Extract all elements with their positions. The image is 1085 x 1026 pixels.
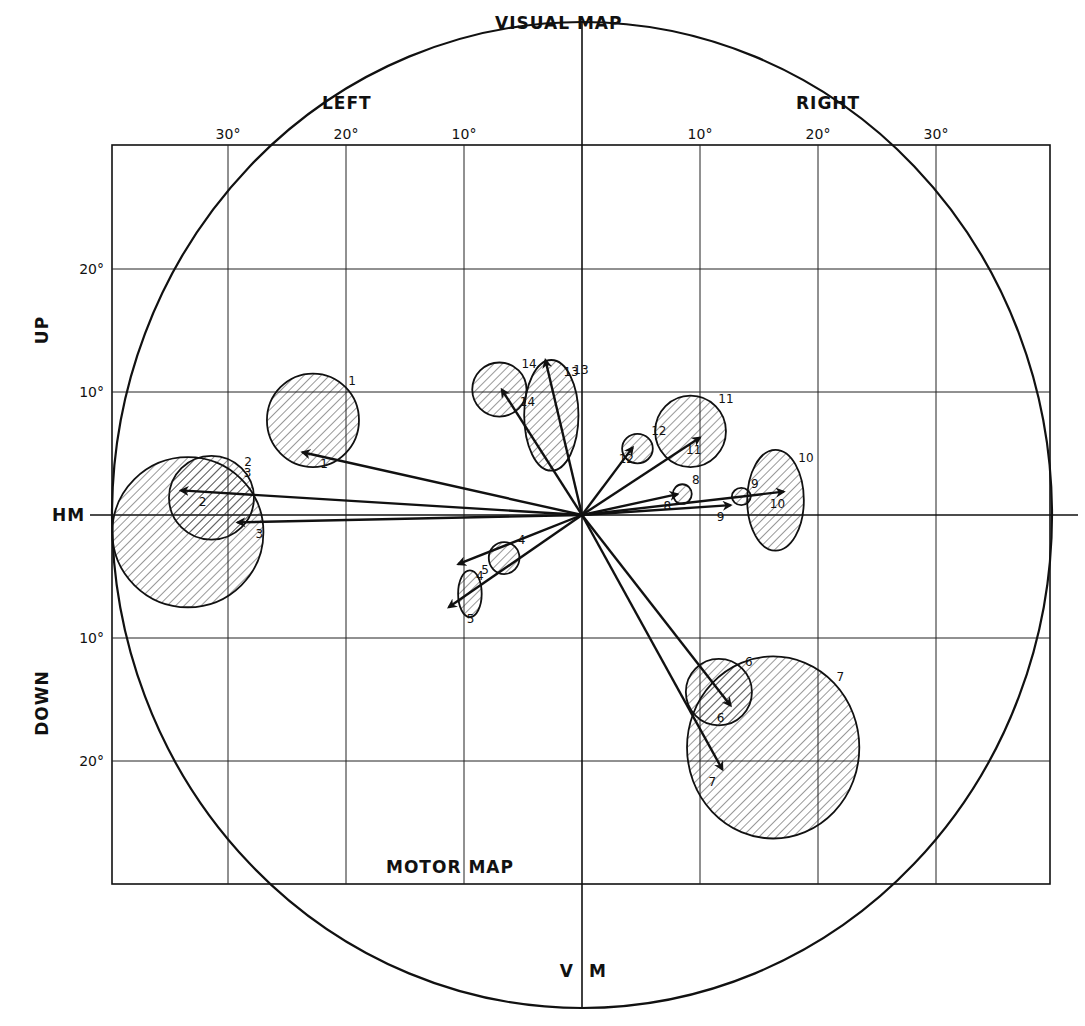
motor-map-title: MOTOR MAP <box>386 857 514 877</box>
x-tick-label: 30° <box>924 126 949 142</box>
x-tick-label: 10° <box>688 126 713 142</box>
vector-label-13: 13 <box>563 365 578 379</box>
field-label-1: 1 <box>348 374 356 388</box>
field-label-11: 11 <box>718 392 733 406</box>
saccade-vector-3 <box>237 515 582 522</box>
field-label-7: 7 <box>836 670 844 684</box>
vector-label-1: 1 <box>320 457 328 471</box>
left-label: LEFT <box>322 93 372 113</box>
x-tick-label: 30° <box>216 126 241 142</box>
field-label-14: 14 <box>521 357 536 371</box>
field-label-12: 12 <box>651 424 666 438</box>
receptive-fields <box>112 360 859 838</box>
down-label: DOWN <box>32 670 52 736</box>
field-label-4: 4 <box>518 533 526 547</box>
receptive-field-3 <box>112 457 263 607</box>
vector-label-11: 11 <box>686 443 701 457</box>
field-label-6: 6 <box>745 655 753 669</box>
y-tick-label: 20° <box>79 753 104 769</box>
saccade-vector-7 <box>582 515 722 770</box>
receptive-field-14 <box>472 362 526 416</box>
vector-label-9: 9 <box>717 510 725 524</box>
hm-label: HM <box>52 505 85 525</box>
vm-label-right: M <box>589 961 607 981</box>
y-tick-label: 10° <box>79 384 104 400</box>
visual-motor-map-figure: 11223344556677889910101111121213131414 V… <box>0 0 1085 1026</box>
x-tick-label: 20° <box>806 126 831 142</box>
visual-map-title: VISUAL MAP <box>495 13 622 33</box>
field-label-9: 9 <box>751 477 759 491</box>
y-tick-label: 20° <box>79 261 104 277</box>
x-tick-label: 10° <box>452 126 477 142</box>
vector-label-14: 14 <box>520 395 535 409</box>
y-tick-label: 10° <box>79 630 104 646</box>
vector-label-12: 12 <box>619 452 634 466</box>
right-label: RIGHT <box>796 93 860 113</box>
vector-label-7: 7 <box>708 775 716 789</box>
up-label: UP <box>32 316 52 344</box>
field-label-3: 3 <box>244 466 252 480</box>
vector-label-5: 5 <box>467 612 475 626</box>
vm-label-left: V <box>560 961 574 981</box>
vector-label-6: 6 <box>717 711 725 725</box>
field-label-10: 10 <box>798 451 813 465</box>
vector-label-3: 3 <box>255 527 263 541</box>
vector-label-8: 8 <box>664 499 672 513</box>
receptive-field-1 <box>267 374 359 467</box>
vector-label-10: 10 <box>770 497 785 511</box>
saccade-vector-6 <box>582 515 731 706</box>
vector-label-2: 2 <box>199 495 207 509</box>
x-tick-label: 20° <box>334 126 359 142</box>
field-label-8: 8 <box>692 473 700 487</box>
field-label-5: 5 <box>481 563 489 577</box>
